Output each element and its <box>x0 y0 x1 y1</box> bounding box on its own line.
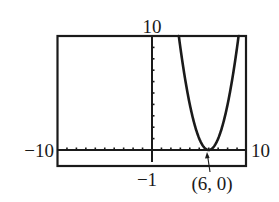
point-label: (6, 0) <box>191 173 232 195</box>
xmax-label: 10 <box>251 140 270 161</box>
ymin-label: −1 <box>137 169 157 190</box>
xmin-label: −10 <box>24 140 54 161</box>
annotation-arrow-head-icon <box>205 152 210 159</box>
graph-figure: 10 −10 10 −1 (6, 0) <box>0 0 279 202</box>
ymax-label: 10 <box>143 16 162 37</box>
parabola-curve <box>178 36 239 150</box>
